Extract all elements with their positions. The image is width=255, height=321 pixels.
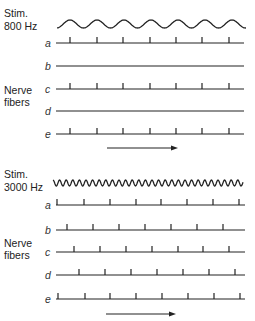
panel-3000hz: Stim. 3000 Hz Nerve fibers abcde [4,168,245,317]
volley-principle-diagram: Stim. 800 Hz Nerve fibers abcde Stim. 30… [0,0,255,321]
fiber-row-a: a [45,199,245,211]
fiber-label: e [45,293,51,305]
stimulus-label: Stim. [4,168,28,180]
stimulus-frequency-label: 3000 Hz [4,181,43,193]
time-arrow [107,146,178,151]
stimulus-label: Stim. [4,7,28,19]
stimulus-waveform [53,180,243,186]
fiber-row-b: b [45,60,244,72]
arrowhead-icon [171,146,178,151]
fiber-label: a [45,37,51,49]
stimulus-frequency-label: 800 Hz [4,20,37,32]
fiber-row-e: e [45,128,244,140]
fiber-label: d [45,105,52,117]
fiber-rows: abcde [45,37,244,140]
panel-800hz: Stim. 800 Hz Nerve fibers abcde [4,7,246,151]
nerve-fibers-label-line2: fibers [4,249,30,261]
fiber-rows: abcde [45,199,245,305]
stimulus-waveform [57,20,246,28]
fiber-label: b [45,224,51,236]
fiber-label: a [45,199,51,211]
time-arrow [106,312,176,317]
fiber-label: b [45,60,51,72]
nerve-fibers-label-line2: fibers [4,96,30,108]
fiber-row-b: b [45,224,245,236]
fiber-label: d [45,269,52,281]
nerve-fibers-label: Nerve [4,84,32,96]
fiber-row-d: d [45,105,244,117]
fiber-row-c: c [45,246,245,258]
fiber-label: c [45,246,51,258]
fiber-label: c [45,83,51,95]
fiber-row-e: e [45,293,245,305]
fiber-row-c: c [45,83,244,95]
nerve-fibers-label: Nerve [4,237,32,249]
arrowhead-icon [169,312,176,317]
fiber-row-d: d [45,269,245,281]
fiber-label: e [45,128,51,140]
fiber-row-a: a [45,37,244,49]
